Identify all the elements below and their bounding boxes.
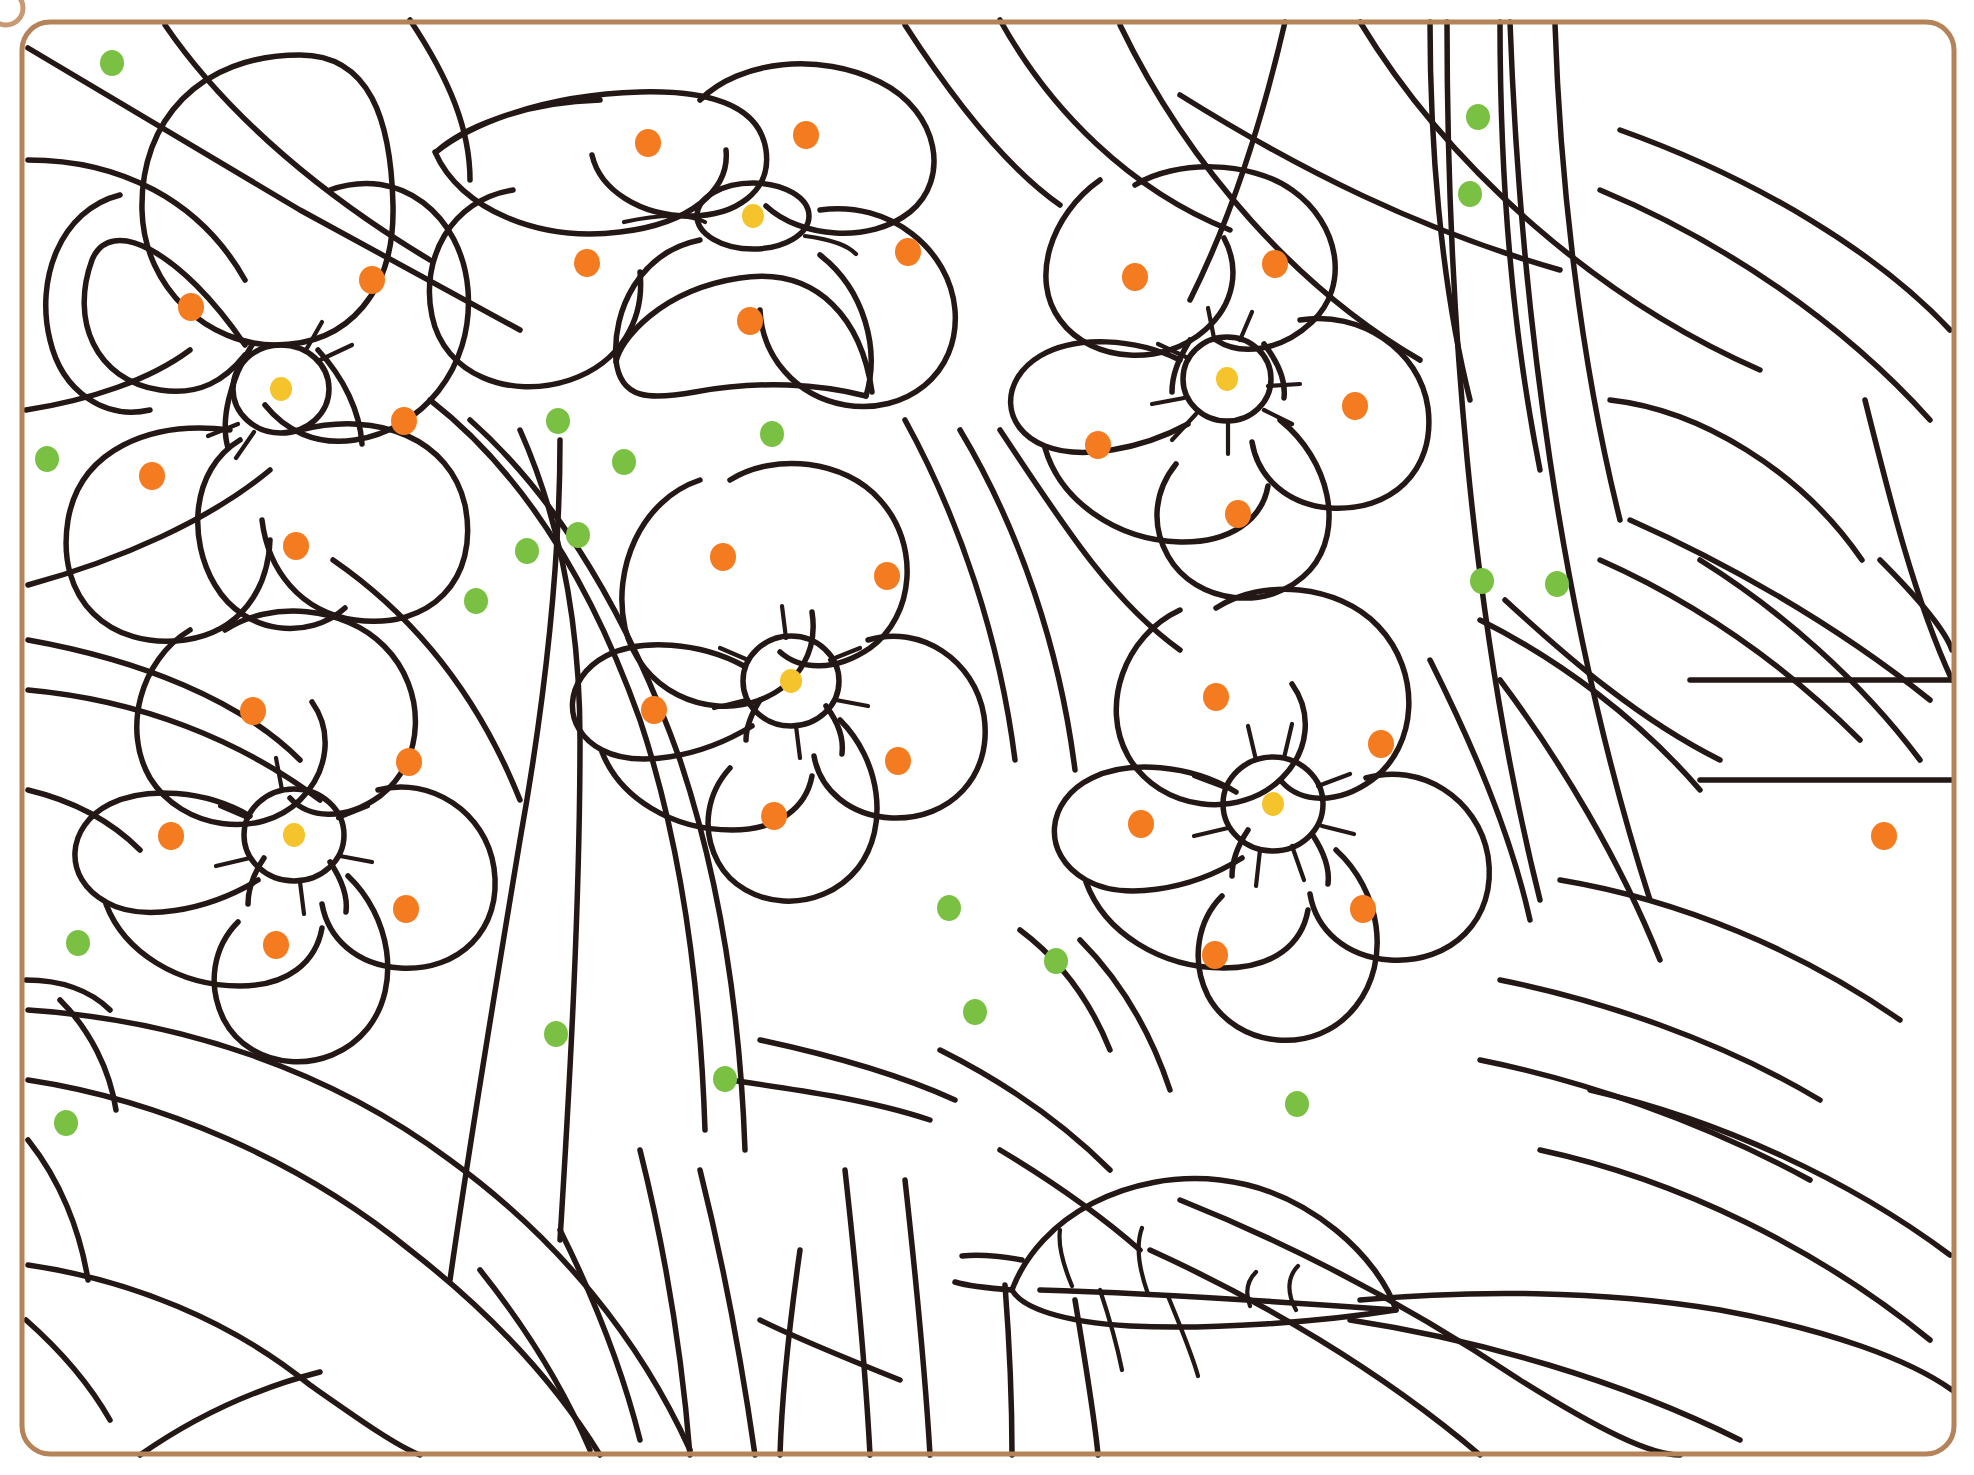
- frame-layer: [0, 0, 1974, 1475]
- artboard: Color-by-Dot Flowers Coloring Page Color…: [0, 0, 1974, 1475]
- corner-registration-mark: [0, 0, 23, 25]
- coloring-page-canvas: Color-by-Dot Flowers Coloring Page Color…: [0, 0, 1974, 1475]
- page-border: [22, 22, 1954, 1454]
